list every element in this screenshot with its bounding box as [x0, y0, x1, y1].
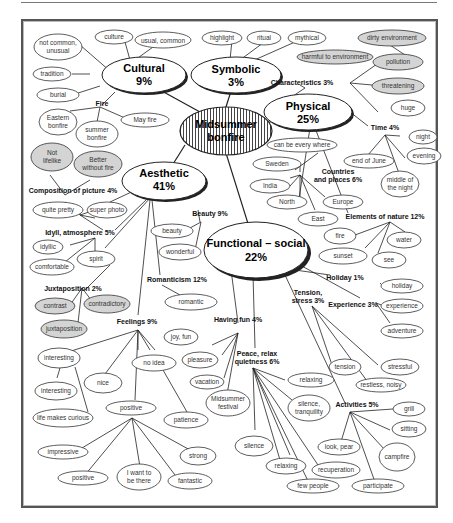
leaf-usual-common[interactable]: usual, common	[135, 32, 191, 48]
svg-text:bonfire: bonfire	[87, 134, 107, 141]
leaf-grill[interactable]: grill	[393, 402, 425, 416]
leaf-positive-group[interactable]: positive	[106, 401, 156, 415]
leaf-wonderful[interactable]: wonderful	[159, 244, 201, 260]
leaf-better-without-fire[interactable]: Betterwithout fire	[74, 151, 122, 177]
leaf-harmful[interactable]: harmful to environment	[297, 50, 373, 64]
category-pct: 22%	[245, 251, 267, 263]
leaf-north[interactable]: North	[267, 195, 307, 209]
leaf-silence-tranquility[interactable]: silence,tranquility	[288, 395, 330, 421]
leaf-impressive[interactable]: impressive	[38, 445, 88, 459]
svg-text:strong: strong	[189, 452, 207, 460]
leaf-recuperation[interactable]: recuperation	[312, 462, 360, 478]
leaf-juxtaposition[interactable]: juxtaposition	[41, 320, 87, 338]
category-symbolic[interactable]: Symbolic 3%	[191, 57, 283, 95]
subgroup-countries-2: and places 6%	[314, 176, 363, 184]
leaf-joy-fun[interactable]: joy, fun	[164, 329, 198, 345]
leaf-not-lifelike[interactable]: Notlifelike	[31, 143, 73, 171]
leaf-look-pear[interactable]: look, pear	[318, 439, 360, 455]
leaf-tradition[interactable]: tradition	[33, 67, 71, 81]
svg-text:holiday: holiday	[392, 282, 413, 290]
leaf-middle-of-night[interactable]: middle ofthe night	[381, 171, 419, 197]
leaf-water[interactable]: water	[387, 232, 421, 248]
leaf-contrast[interactable]: contrast	[35, 298, 75, 314]
svg-text:evening: evening	[413, 152, 436, 160]
leaf-patience[interactable]: patience	[164, 412, 208, 428]
leaf-relaxing-1[interactable]: relaxing	[288, 373, 334, 387]
leaf-eastern-bonfire[interactable]: Easternbonfire	[39, 109, 77, 135]
leaf-india[interactable]: India	[250, 179, 290, 193]
leaf-quite-pretty[interactable]: quite pretty	[33, 202, 83, 218]
svg-text:Eastern: Eastern	[47, 114, 70, 121]
leaf-may-fire[interactable]: May fire	[121, 113, 169, 127]
leaf-highlight[interactable]: highlight	[202, 31, 242, 45]
leaf-vacation[interactable]: vacation	[190, 375, 224, 389]
leaf-night[interactable]: night	[409, 130, 437, 144]
leaf-evening[interactable]: evening	[407, 148, 441, 164]
leaf-sitting[interactable]: sitting	[392, 421, 426, 437]
category-functional-social[interactable]: Functional – social 22%	[204, 222, 311, 281]
svg-text:harmful to environment: harmful to environment	[302, 53, 369, 60]
leaf-culture[interactable]: culture	[95, 30, 133, 44]
leaf-mythical[interactable]: mythical	[288, 31, 326, 45]
leaf-midsummer-festival[interactable]: Midsummerfestival	[206, 390, 250, 416]
subgroup-juxtaposition: Juxtaposition 2%	[44, 285, 102, 293]
leaf-summer-bonfire[interactable]: summerbonfire	[76, 121, 118, 147]
leaf-participate[interactable]: participate	[352, 479, 404, 493]
leaf-experience[interactable]: experience	[381, 299, 423, 313]
leaf-ritual[interactable]: ritual	[247, 31, 281, 45]
leaf-no-idea[interactable]: no idea	[132, 355, 176, 371]
leaf-interesting-2[interactable]: interesting	[35, 382, 77, 400]
leaf-spirit[interactable]: spirit	[77, 251, 115, 267]
leaf-east[interactable]: East	[298, 212, 338, 226]
svg-text:sitting: sitting	[401, 425, 418, 433]
svg-text:few people: few people	[297, 482, 329, 490]
leaf-life-makes-curious[interactable]: life makes curious	[33, 409, 93, 427]
svg-text:beauty: beauty	[162, 227, 182, 235]
leaf-silence[interactable]: silence	[235, 436, 273, 456]
leaf-europe[interactable]: Europe	[323, 195, 363, 209]
category-label: Symbolic	[212, 63, 261, 75]
leaf-huge[interactable]: huge	[391, 100, 425, 116]
leaf-threatening[interactable]: threatening	[372, 78, 424, 94]
leaf-stressful[interactable]: stressful	[381, 359, 419, 375]
leaf-tension[interactable]: tension	[329, 359, 361, 375]
leaf-holiday[interactable]: holiday	[381, 279, 423, 293]
svg-text:positive: positive	[72, 474, 94, 482]
category-physical[interactable]: Physical 25%	[264, 94, 354, 132]
leaf-sweden[interactable]: Sweden	[253, 157, 301, 171]
leaf-see[interactable]: see	[372, 252, 406, 268]
category-cultural[interactable]: Cultural 9%	[102, 57, 188, 95]
leaf-pleasure[interactable]: pleasure	[182, 352, 218, 368]
leaf-fantastic[interactable]: fantastic	[168, 473, 212, 489]
leaf-campfire[interactable]: campfire	[379, 443, 415, 471]
leaf-want-to-be-there[interactable]: I want tobe there	[117, 464, 161, 490]
svg-text:mythical: mythical	[295, 34, 319, 42]
leaf-strong[interactable]: strong	[180, 447, 216, 465]
leaf-positive[interactable]: positive	[58, 471, 108, 485]
center-node[interactable]: Midsummer bonfire	[180, 107, 272, 155]
svg-text:pleasure: pleasure	[188, 356, 213, 364]
svg-text:water: water	[395, 236, 413, 243]
leaf-restless-noisy[interactable]: restless, noisy	[356, 378, 406, 392]
leaf-end-of-june[interactable]: end of June	[344, 154, 394, 168]
leaf-idyllic[interactable]: idyllic	[33, 240, 63, 254]
leaf-comfortable[interactable]: comfortable	[30, 259, 74, 275]
leaf-romantic[interactable]: romantic	[165, 294, 217, 310]
leaf-relaxing-2[interactable]: relaxing	[266, 458, 306, 474]
leaf-nice[interactable]: nice	[84, 373, 122, 393]
leaf-burial[interactable]: burial	[37, 88, 79, 102]
leaf-can-be-everywhere[interactable]: can be every where	[267, 138, 337, 152]
leaf-dirty-environment[interactable]: dirty environment	[358, 30, 426, 46]
leaf-few-people[interactable]: few people	[287, 479, 339, 493]
leaf-fire[interactable]: fire	[324, 228, 356, 244]
leaf-contradictory[interactable]: contradictory	[84, 295, 130, 313]
leaf-beauty[interactable]: beauty	[151, 224, 193, 238]
category-label: Cultural	[123, 62, 165, 74]
leaf-interesting-1[interactable]: interesting	[38, 348, 80, 368]
leaf-adventure[interactable]: adventure	[381, 324, 423, 338]
leaf-super-photo[interactable]: super photo	[87, 202, 127, 218]
leaf-pollution[interactable]: pollution	[373, 54, 423, 70]
leaf-not-common[interactable]: not common,unusual	[34, 34, 82, 60]
category-aesthetic[interactable]: Aesthetic 41%	[122, 162, 208, 202]
leaf-sunset[interactable]: sunset	[319, 248, 367, 264]
